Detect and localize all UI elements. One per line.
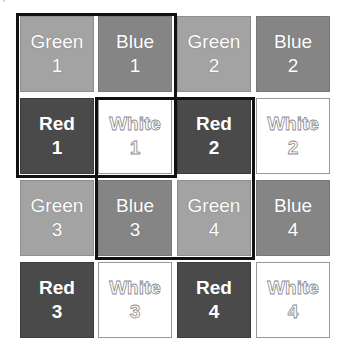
tile-white-3: White 3	[98, 262, 172, 338]
tile-label: White	[267, 276, 319, 300]
tile-number: 1	[130, 54, 141, 78]
tile-number: 1	[52, 136, 63, 160]
tile-label: Red	[196, 276, 232, 300]
tile-label: Blue	[274, 194, 312, 218]
tile-label: White	[267, 112, 319, 136]
tile-white-2: White 2	[256, 98, 330, 174]
tile-label: Green	[188, 30, 241, 54]
tile-blue-2: Blue 2	[256, 16, 330, 92]
tile-blue-3: Blue 3	[98, 180, 172, 256]
tile-blue-1: Blue 1	[98, 16, 172, 92]
tile-label: Blue	[116, 194, 154, 218]
tile-number: 2	[209, 54, 220, 78]
tile-label: Blue	[116, 30, 154, 54]
tile-label: Green	[31, 30, 84, 54]
corner-mark: '	[3, 0, 5, 8]
tile-number: 4	[209, 218, 220, 242]
tile-label: White	[109, 112, 161, 136]
tile-label: Red	[39, 112, 75, 136]
tile-label: Red	[196, 112, 232, 136]
tile-green-2: Green 2	[177, 16, 251, 92]
tile-number: 1	[52, 54, 63, 78]
tile-number: 3	[130, 218, 141, 242]
tile-green-3: Green 3	[20, 180, 94, 256]
tile-number: 2	[209, 136, 220, 160]
tile-label: White	[109, 276, 161, 300]
tile-number: 4	[209, 300, 220, 324]
tile-label: Blue	[274, 30, 312, 54]
tile-number: 2	[288, 54, 299, 78]
tile-number: 3	[130, 300, 141, 324]
tile-label: Green	[31, 194, 84, 218]
tile-white-4: White 4	[256, 262, 330, 338]
tile-green-1: Green 1	[20, 16, 94, 92]
tile-number: 3	[52, 300, 63, 324]
tile-red-4: Red 4	[177, 262, 251, 338]
tile-red-1: Red 1	[20, 98, 94, 174]
tile-label: Green	[188, 194, 241, 218]
tile-number: 2	[288, 136, 299, 160]
tile-label: Red	[39, 276, 75, 300]
tile-number: 1	[130, 136, 141, 160]
tile-blue-4: Blue 4	[256, 180, 330, 256]
tile-green-4: Green 4	[177, 180, 251, 256]
tile-red-3: Red 3	[20, 262, 94, 338]
tile-number: 4	[288, 218, 299, 242]
tile-red-2: Red 2	[177, 98, 251, 174]
tile-number: 3	[52, 218, 63, 242]
tile-number: 4	[288, 300, 299, 324]
tile-white-1: White 1	[98, 98, 172, 174]
